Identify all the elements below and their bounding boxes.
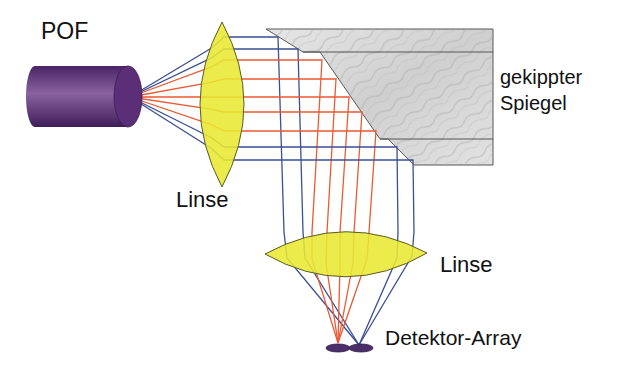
ray-blue <box>130 97 398 345</box>
label-mirror-line2: Spiegel <box>500 93 567 114</box>
detector-left <box>326 344 350 352</box>
optical-diagram <box>0 0 621 368</box>
ray-blue <box>130 97 414 345</box>
pof-fiber <box>26 66 142 127</box>
detector-right <box>349 344 373 352</box>
upper-lens <box>200 22 244 187</box>
label-lens-upper: Linse <box>176 188 229 211</box>
label-lens-lower: Linse <box>440 253 493 276</box>
label-pof: POF <box>41 19 88 43</box>
lower-lens <box>265 232 427 277</box>
detector-array <box>326 344 373 352</box>
label-mirror-line1: gekippter <box>500 67 582 88</box>
label-detector-array: Detektor-Array <box>385 327 522 349</box>
